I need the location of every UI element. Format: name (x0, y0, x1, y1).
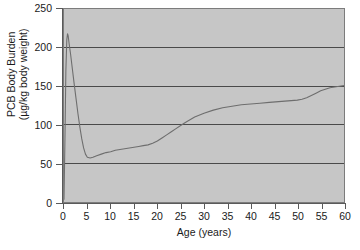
x-tick (63, 204, 64, 209)
x-tick (181, 204, 182, 209)
x-tick (228, 204, 229, 209)
x-tick (87, 204, 88, 209)
y-axis-line (62, 8, 63, 204)
chart-figure: 050100150200250 051015202530354045505560… (0, 0, 360, 250)
data-series-line (64, 9, 344, 202)
y-axis-title-line2: (µg/kg body weight) (17, 0, 29, 149)
y-tick-label: 100 (34, 120, 52, 131)
y-tick-label: 0 (46, 198, 52, 209)
x-tick (275, 204, 276, 209)
y-tick-label: 50 (40, 159, 52, 170)
y-tick (56, 86, 62, 87)
y-tick (56, 8, 62, 9)
x-axis-title: Age (years) (63, 226, 345, 238)
y-tick (56, 203, 62, 204)
y-tick (56, 125, 62, 126)
x-tick (204, 204, 205, 209)
y-axis-title-line1: PCB Body Burden (5, 0, 17, 149)
x-tick (134, 204, 135, 209)
y-tick-label: 250 (34, 3, 52, 14)
y-tick (56, 47, 62, 48)
x-tick (251, 204, 252, 209)
x-tick (110, 204, 111, 209)
y-tick-label: 150 (34, 81, 52, 92)
y-tick-label: 200 (34, 42, 52, 53)
y-tick (56, 164, 62, 165)
x-tick-label: 60 (330, 211, 360, 222)
x-tick (157, 204, 158, 209)
x-tick (322, 204, 323, 209)
plot-area (63, 8, 345, 203)
x-tick (345, 204, 346, 209)
y-axis-title: PCB Body Burden (µg/kg body weight) (5, 0, 30, 149)
x-tick (298, 204, 299, 209)
